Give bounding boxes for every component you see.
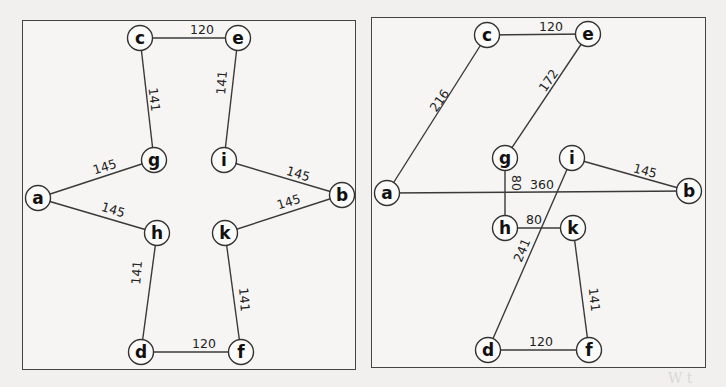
node-f: f xyxy=(229,340,254,365)
node-g: g xyxy=(142,148,167,173)
edge-weight-label: 120 xyxy=(192,336,216,351)
node-b: b xyxy=(330,183,355,208)
node-label: h xyxy=(499,218,511,238)
edge-weight-labels: 1201411411451451451451411411201202161728… xyxy=(91,19,659,351)
node-label: i xyxy=(221,150,227,170)
node-c: c xyxy=(128,26,153,51)
node-label: e xyxy=(232,28,244,48)
edge-weight-label: 80 xyxy=(526,212,542,227)
node-label: c xyxy=(135,28,145,48)
edge-i-b xyxy=(224,160,342,195)
nodes-layer: cegiabhkdfcegiabhkdf xyxy=(26,22,702,365)
node-d: d xyxy=(476,338,501,363)
edge-a-h xyxy=(38,198,157,233)
node-label: d xyxy=(135,342,147,362)
edge-weight-label: 145 xyxy=(285,163,312,184)
edge-e-i xyxy=(224,38,238,160)
node-i: i xyxy=(212,148,237,173)
edge-weight-label: 241 xyxy=(510,236,533,264)
edge-weight-label: 141 xyxy=(236,287,253,312)
graph-canvas: 1201411411451451451451411411201202161728… xyxy=(0,0,726,387)
edge-weight-label: 145 xyxy=(632,160,659,181)
node-e: e xyxy=(226,26,251,51)
edge-weight-label: 141 xyxy=(128,260,145,285)
edge-weight-label: 80 xyxy=(509,175,524,191)
node-label: e xyxy=(582,24,594,44)
edge-weight-label: 120 xyxy=(190,22,214,37)
edge-weight-label: 216 xyxy=(426,86,452,114)
edge-i-b xyxy=(572,158,689,191)
node-g: g xyxy=(493,146,518,171)
edge-e-g xyxy=(505,34,588,158)
node-label: f xyxy=(237,342,245,362)
node-label: k xyxy=(567,218,579,238)
node-d: d xyxy=(129,340,154,365)
edge-weight-label: 141 xyxy=(146,87,164,113)
node-h: h xyxy=(493,216,518,241)
node-label: d xyxy=(482,340,494,360)
edge-weight-label: 120 xyxy=(539,19,563,34)
node-i: i xyxy=(560,146,585,171)
node-a: a xyxy=(375,181,400,206)
node-label: a xyxy=(32,188,43,208)
node-label: b xyxy=(683,181,695,201)
node-label: g xyxy=(499,148,511,168)
node-label: g xyxy=(148,150,160,170)
node-f: f xyxy=(577,338,602,363)
node-a: a xyxy=(26,186,51,211)
edge-weight-label: 172 xyxy=(535,66,561,94)
node-label: a xyxy=(381,183,392,203)
node-label: f xyxy=(585,340,593,360)
node-label: i xyxy=(569,148,575,168)
node-label: h xyxy=(151,223,163,243)
node-k: k xyxy=(213,221,238,246)
edge-weight-label: 360 xyxy=(530,177,554,192)
node-h: h xyxy=(145,221,170,246)
edge-weight-label: 145 xyxy=(91,156,118,177)
edge-weight-label: 120 xyxy=(529,334,553,349)
edge-weight-label: 141 xyxy=(586,287,603,312)
node-label: c xyxy=(482,25,492,45)
node-k: k xyxy=(561,216,586,241)
footer-fragment: W t xyxy=(668,370,692,386)
node-b: b xyxy=(677,179,702,204)
node-label: b xyxy=(336,185,348,205)
node-c: c xyxy=(475,23,500,48)
node-label: k xyxy=(219,223,231,243)
edge-h-d xyxy=(141,233,157,352)
edge-weight-label: 141 xyxy=(213,70,230,95)
edge-c-e xyxy=(487,34,588,35)
node-e: e xyxy=(576,22,601,47)
